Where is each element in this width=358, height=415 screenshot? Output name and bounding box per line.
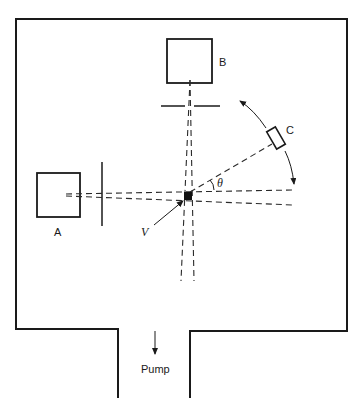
- label-b: B: [219, 56, 226, 68]
- label-pump: Pump: [141, 363, 170, 375]
- source-b-box: [167, 39, 212, 83]
- velocity-arrow: [154, 201, 183, 225]
- angle-theta-arc: [210, 180, 214, 190]
- rotation-arc-upper: [240, 101, 266, 128]
- label-a: A: [54, 226, 62, 238]
- label-theta: θ: [217, 176, 223, 190]
- interaction-region: [184, 192, 192, 200]
- rotation-arc-lower: [285, 151, 294, 184]
- beam-a-upper: [66, 190, 293, 194]
- source-a-box: [37, 173, 80, 217]
- label-velocity: V: [141, 225, 150, 239]
- beam-b-right: [190, 80, 194, 281]
- vacuum-chamber-wall: [16, 19, 347, 398]
- crossed-beam-apparatus-diagram: A B C V θ Pump: [0, 0, 358, 415]
- beam-b-left: [181, 80, 190, 281]
- label-c: C: [286, 124, 294, 136]
- detector-line-of-sight: [190, 144, 272, 192]
